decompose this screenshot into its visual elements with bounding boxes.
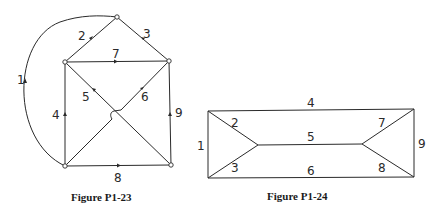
label-edge-7: 7 [378,116,386,130]
node-upper-left [63,60,67,64]
label-edge-1: 1 [17,73,25,87]
label-edge-5: 5 [82,90,90,104]
edge-8 [362,144,414,177]
label-edge-9: 9 [175,106,183,120]
label-edge-7: 7 [112,47,120,61]
label-edge-1: 1 [197,139,205,153]
label-edge-6: 6 [307,164,315,178]
label-edge-3: 3 [231,161,239,175]
label-edge-4: 4 [307,96,315,110]
label-edge-8: 8 [378,161,386,175]
node-lower-right [169,163,173,167]
label-edge-3: 3 [143,27,151,41]
arrow-edge-8 [117,164,121,168]
arrow-edge-9 [168,112,172,116]
figure-p1-23: 1 2 3 4 5 6 7 8 9 Figure P1-23 [17,15,183,203]
edge-7 [362,109,414,144]
arrow-edge-4 [63,112,67,116]
label-edge-8: 8 [114,171,122,185]
caption-figure-p1-24: Figure P1-24 [267,190,328,202]
label-edge-5: 5 [307,130,315,144]
label-edge-6: 6 [141,90,149,104]
diagram-canvas: 1 2 3 4 5 6 7 8 9 Figure P1-23 1 2 3 4 5… [0,0,440,209]
caption-figure-p1-23: Figure P1-23 [71,191,132,203]
label-edge-4: 4 [52,108,60,122]
figure-p1-24: 1 2 3 4 5 6 7 8 9 Figure P1-24 [197,96,426,202]
edge-5 [258,144,362,145]
label-edge-2: 2 [78,29,86,43]
node-top [115,15,119,19]
node-upper-right [167,59,171,63]
node-lower-left [63,164,67,168]
label-edge-9: 9 [418,137,426,151]
label-edge-2: 2 [231,116,239,130]
edge-1 [24,16,117,166]
